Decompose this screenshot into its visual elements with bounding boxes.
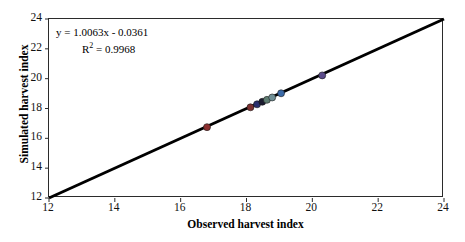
y-tick-label: 22 bbox=[2, 41, 42, 53]
x-tick-label: 18 bbox=[226, 201, 266, 213]
x-tick-label: 20 bbox=[291, 201, 331, 213]
y-tick-label: 18 bbox=[2, 101, 42, 113]
r-squared-value: = 0.9968 bbox=[96, 43, 135, 55]
data-point bbox=[269, 94, 276, 101]
x-axis-title: Observed harvest index bbox=[48, 218, 443, 230]
data-point bbox=[247, 104, 254, 111]
y-tick-label: 24 bbox=[2, 11, 42, 23]
regression-equation: y = 1.0063x - 0.0361 bbox=[56, 26, 148, 39]
y-tick-label: 20 bbox=[2, 71, 42, 83]
x-tick-label: 14 bbox=[94, 201, 134, 213]
x-tick-label: 16 bbox=[160, 201, 200, 213]
regression-annotation: y = 1.0063x - 0.0361 R2 = 0.9968 bbox=[56, 26, 148, 56]
scatter-chart-figure: Simulated harvest index y = 1.0063x - 0.… bbox=[0, 0, 465, 242]
data-point bbox=[204, 124, 211, 131]
x-tick-label: 22 bbox=[357, 201, 397, 213]
r-squared-text: R2 = 0.9968 bbox=[56, 39, 148, 56]
r-squared-exponent: 2 bbox=[89, 41, 93, 50]
x-tick-label: 12 bbox=[28, 201, 68, 213]
data-point bbox=[278, 90, 285, 97]
data-point bbox=[319, 72, 326, 79]
x-tick-label: 24 bbox=[423, 201, 463, 213]
y-tick-label: 14 bbox=[2, 160, 42, 172]
y-tick-label: 16 bbox=[2, 130, 42, 142]
